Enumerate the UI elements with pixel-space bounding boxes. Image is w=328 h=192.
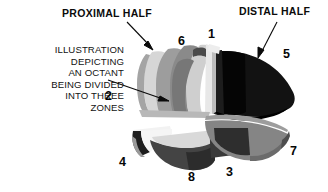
caption-line-3: AN OCTANT	[2, 67, 124, 79]
zone-number-6: 6	[178, 34, 185, 48]
section-plane-plate-edge	[212, 46, 216, 114]
zone-number-7: 7	[290, 144, 297, 158]
distal-half-arrow	[258, 22, 277, 58]
figure-caption: ILLUSTRATION DEPICTING AN OCTANT BEING D…	[2, 44, 124, 114]
zone-number-4: 4	[119, 155, 126, 169]
distal-half-label: DISTAL HALF	[239, 5, 310, 17]
figure-canvas: PROXIMAL HALF DISTAL HALF ILLUSTRATION D…	[0, 0, 328, 192]
zone-number-2: 2	[105, 89, 112, 103]
zone-number-1: 1	[208, 27, 215, 41]
distal-half-dome	[207, 50, 295, 120]
zone-number-8: 8	[188, 170, 195, 184]
caption-line-2: DEPICTING	[2, 56, 124, 68]
caption-line-1: ILLUSTRATION	[2, 44, 124, 56]
zone-number-3: 3	[226, 165, 233, 179]
proximal-half-dome	[137, 44, 216, 118]
proximal-half-arrow	[127, 22, 153, 50]
zone-number-5: 5	[283, 47, 290, 61]
caption-line-6: ZONES	[2, 102, 124, 114]
proximal-half-label: PROXIMAL HALF	[62, 7, 152, 19]
